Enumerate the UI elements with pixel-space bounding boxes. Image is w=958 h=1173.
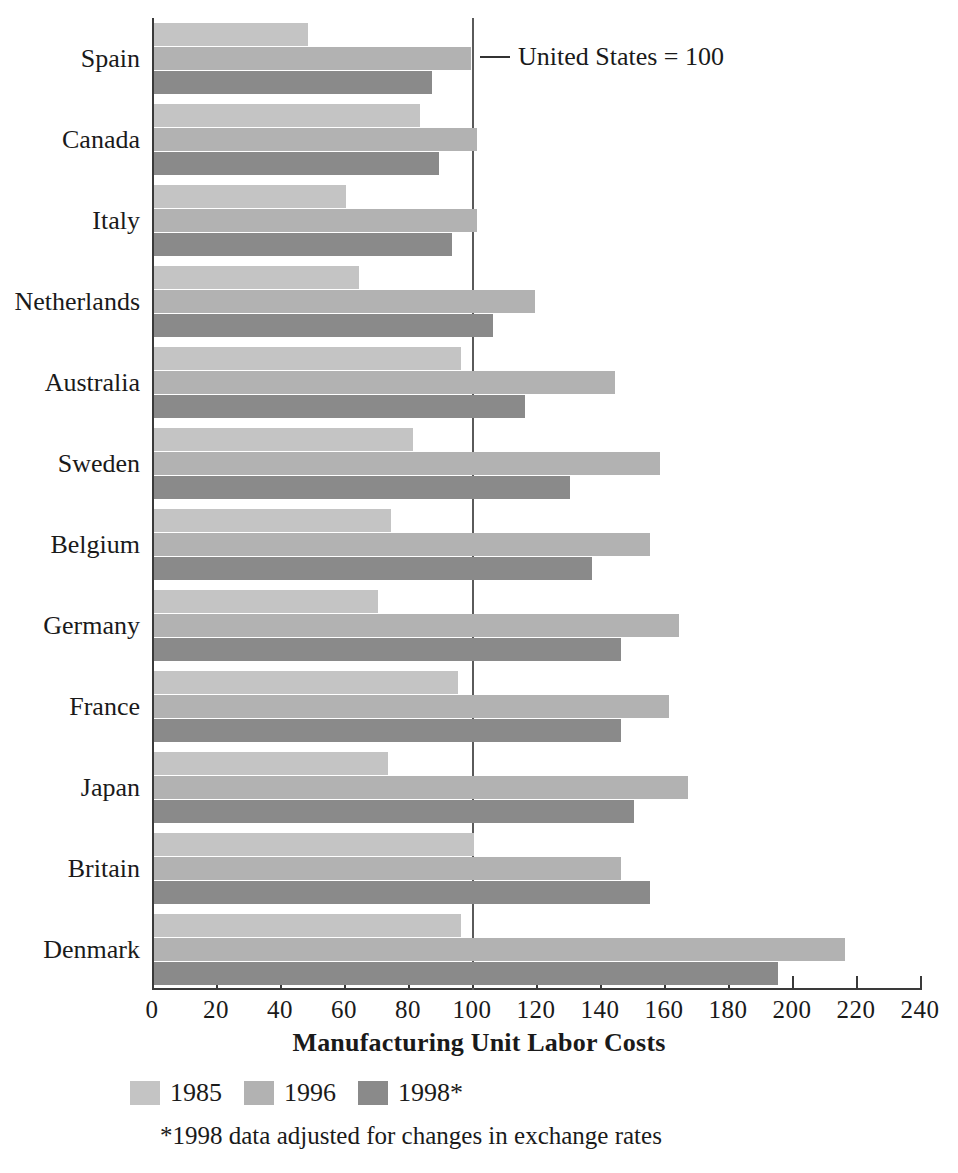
bar-australia-1985 [154, 347, 461, 370]
bar-netherlands-1985 [154, 266, 359, 289]
bar-group-denmark: Denmark [154, 914, 922, 985]
category-label-sweden: Sweden [58, 451, 140, 477]
x-tick-label-80: 80 [395, 996, 421, 1024]
x-tick-label-180: 180 [709, 996, 748, 1024]
bar-italy-1985 [154, 185, 346, 208]
legend-item-1998[interactable]: 1998* [358, 1078, 463, 1108]
bar-canada-1985 [154, 104, 420, 127]
x-axis-line [152, 988, 922, 990]
legend-swatch-1996 [244, 1081, 274, 1105]
bar-spain-1985 [154, 23, 308, 46]
category-label-japan: Japan [81, 775, 140, 801]
x-tick-label-120: 120 [517, 996, 556, 1024]
bar-denmark-1998 [154, 962, 778, 985]
bar-sweden-1996 [154, 452, 660, 475]
bar-australia-1996 [154, 371, 615, 394]
legend-item-1985[interactable]: 1985 [130, 1078, 222, 1108]
x-tick-label-60: 60 [331, 996, 357, 1024]
category-label-denmark: Denmark [43, 937, 140, 963]
bar-group-italy: Italy [154, 185, 922, 256]
bar-belgium-1996 [154, 533, 650, 556]
category-label-australia: Australia [45, 370, 140, 396]
bar-sweden-1998 [154, 476, 570, 499]
bar-spain-1996 [154, 47, 471, 70]
legend-item-1996[interactable]: 1996 [244, 1078, 336, 1108]
x-tick-label-200: 200 [773, 996, 812, 1024]
bar-group-sweden: Sweden [154, 428, 922, 499]
chart-legend: 198519961998* [130, 1078, 463, 1108]
bar-sweden-1985 [154, 428, 413, 451]
bar-japan-1985 [154, 752, 388, 775]
x-tick-label-40: 40 [267, 996, 293, 1024]
category-label-france: France [69, 694, 140, 720]
category-label-italy: Italy [92, 208, 140, 234]
chart-figure: 020406080100120140160180200220240 SpainC… [0, 0, 958, 1173]
bar-group-australia: Australia [154, 347, 922, 418]
x-axis-title: Manufacturing Unit Labor Costs [0, 1028, 958, 1058]
bar-britain-1996 [154, 857, 621, 880]
bar-netherlands-1996 [154, 290, 535, 313]
category-label-spain: Spain [81, 46, 140, 72]
bar-group-netherlands: Netherlands [154, 266, 922, 337]
category-label-germany: Germany [43, 613, 140, 639]
bar-group-canada: Canada [154, 104, 922, 175]
bar-netherlands-1998 [154, 314, 493, 337]
bar-denmark-1985 [154, 914, 461, 937]
legend-label-1998: 1998* [398, 1078, 463, 1108]
x-tick-label-20: 20 [203, 996, 229, 1024]
legend-label-1996: 1996 [284, 1078, 336, 1108]
category-label-netherlands: Netherlands [14, 289, 140, 315]
bar-group-britain: Britain [154, 833, 922, 904]
bar-group-germany: Germany [154, 590, 922, 661]
category-label-belgium: Belgium [50, 532, 140, 558]
category-label-canada: Canada [62, 127, 140, 153]
legend-swatch-1985 [130, 1081, 160, 1105]
reference-annotation: United States = 100 [480, 42, 724, 72]
bar-britain-1998 [154, 881, 650, 904]
bar-group-france: France [154, 671, 922, 742]
x-tick-label-160: 160 [645, 996, 684, 1024]
bar-canada-1996 [154, 128, 477, 151]
x-tick-label-0: 0 [146, 996, 159, 1024]
bar-denmark-1996 [154, 938, 845, 961]
bar-canada-1998 [154, 152, 439, 175]
x-tick-label-140: 140 [581, 996, 620, 1024]
legend-label-1985: 1985 [170, 1078, 222, 1108]
bar-italy-1996 [154, 209, 477, 232]
x-tick-label-240: 240 [901, 996, 940, 1024]
bar-group-japan: Japan [154, 752, 922, 823]
bar-belgium-1998 [154, 557, 592, 580]
bar-spain-1998 [154, 71, 432, 94]
bar-france-1985 [154, 671, 458, 694]
x-tick-label-100: 100 [453, 996, 492, 1024]
reference-annotation-label: United States = 100 [518, 42, 724, 72]
bar-japan-1996 [154, 776, 688, 799]
plot-area: 020406080100120140160180200220240 SpainC… [152, 18, 920, 990]
x-tick-label-220: 220 [837, 996, 876, 1024]
bar-germany-1985 [154, 590, 378, 613]
bar-australia-1998 [154, 395, 525, 418]
category-label-britain: Britain [68, 856, 140, 882]
bar-italy-1998 [154, 233, 452, 256]
bar-belgium-1985 [154, 509, 391, 532]
legend-swatch-1998 [358, 1081, 388, 1105]
bar-japan-1998 [154, 800, 634, 823]
reference-dash-icon [480, 56, 510, 58]
chart-footnote: *1998 data adjusted for changes in excha… [160, 1122, 662, 1150]
bar-france-1996 [154, 695, 669, 718]
bar-britain-1985 [154, 833, 474, 856]
bar-germany-1996 [154, 614, 679, 637]
bar-group-belgium: Belgium [154, 509, 922, 580]
bar-germany-1998 [154, 638, 621, 661]
bar-france-1998 [154, 719, 621, 742]
